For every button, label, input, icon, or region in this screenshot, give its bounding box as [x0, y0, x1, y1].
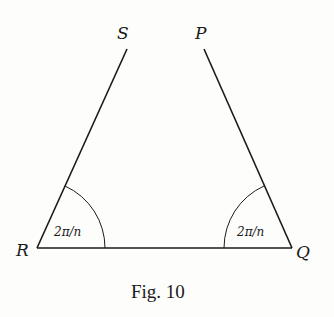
vertex-label-r: R [15, 240, 29, 260]
angle-label-r: 2π/n [53, 225, 81, 239]
figure-diagram: S P R Q 2π/n 2π/n Fig. 10 [0, 0, 334, 317]
figure-caption: Fig. 10 [131, 281, 185, 302]
vertex-label-q: Q [296, 242, 310, 262]
vertex-label-s: S [117, 23, 129, 43]
segment-qp [204, 49, 292, 248]
vertex-label-p: P [194, 23, 207, 43]
segment-rs [37, 49, 127, 248]
angle-label-q: 2π/n [236, 225, 264, 239]
